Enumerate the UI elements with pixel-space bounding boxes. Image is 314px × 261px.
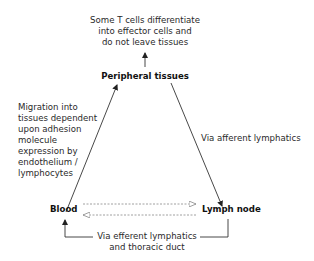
annotation-line: and thoracic duct	[92, 242, 202, 253]
annotation-line: Via efferent lymphatics	[92, 231, 202, 242]
annotation-migration: Migration into tissues dependent upon ad…	[18, 102, 97, 179]
annotation-line: molecule	[18, 135, 97, 146]
annotation-afferent: Via afferent lymphatics	[201, 133, 301, 144]
top-note-line: do not leave tissues	[85, 37, 205, 48]
node-blood: Blood	[50, 204, 77, 215]
annotation-line: expression by	[18, 146, 97, 157]
annotation-line: Migration into	[18, 102, 97, 113]
arrow-efferent-return-segment	[65, 220, 93, 237]
node-peripheral-tissues: Peripheral tissues	[95, 71, 195, 82]
annotation-line: lymphocytes	[18, 168, 97, 179]
arrow-tissues-to-lymph-node	[171, 83, 222, 206]
annotation-line: endothelium /	[18, 157, 97, 168]
node-lymph-node: Lymph node	[202, 204, 261, 215]
arrow-efferent-lymph-node-to-blood	[200, 219, 228, 237]
annotation-line: tissues dependent	[18, 113, 97, 124]
annotation-efferent: Via efferent lymphatics and thoracic duc…	[92, 231, 202, 253]
annotation-line: upon adhesion	[18, 124, 97, 135]
top-note-line: into effector cells and	[85, 26, 205, 37]
top-note: Some T cells differentiate into effector…	[85, 15, 205, 48]
top-note-line: Some T cells differentiate	[85, 15, 205, 26]
lymphocyte-recirculation-diagram: Some T cells differentiate into effector…	[0, 0, 314, 261]
